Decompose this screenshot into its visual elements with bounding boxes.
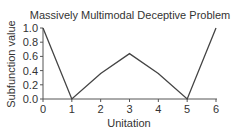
x-tick-label: 1 [69, 103, 75, 115]
y-axis-label: Subfunction value [5, 20, 17, 107]
x-tick-label: 0 [40, 103, 46, 115]
x-tick-label: 5 [184, 103, 190, 115]
data-line [43, 28, 216, 99]
y-tick-label: 0.0 [23, 93, 38, 105]
y-tick-label: 1.0 [23, 22, 38, 34]
chart-title: Massively Multimodal Deceptive Problem [30, 9, 231, 21]
x-tick-label: 4 [155, 103, 161, 115]
x-tick-label: 6 [213, 103, 219, 115]
y-tick-label: 0.2 [23, 79, 38, 91]
y-axis-ticks: 0.00.20.40.60.81.0 [23, 22, 43, 105]
y-tick-label: 0.6 [23, 50, 38, 62]
x-axis-label: Unitation [107, 117, 150, 129]
chart-svg: Massively Multimodal Deceptive Problem 0… [0, 0, 231, 132]
x-tick-label: 2 [98, 103, 104, 115]
y-tick-label: 0.4 [23, 65, 38, 77]
chart-container: Massively Multimodal Deceptive Problem 0… [0, 0, 231, 132]
x-tick-label: 3 [126, 103, 132, 115]
y-tick-label: 0.8 [23, 36, 38, 48]
x-axis-ticks: 0123456 [40, 99, 219, 115]
